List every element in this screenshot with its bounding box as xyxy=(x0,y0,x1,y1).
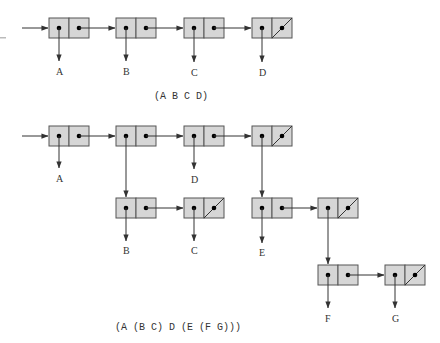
cons-cell xyxy=(49,126,115,168)
cons-cell xyxy=(184,18,251,62)
atom-label: A xyxy=(56,66,64,77)
list-caption: (A B C D) xyxy=(154,91,208,102)
diagram-flat-list: A B C D (A B C D) xyxy=(22,18,292,102)
atom-label: G xyxy=(392,313,399,324)
atom-label: E xyxy=(259,247,265,258)
diagram-nested-list: A D B C E F G (A (B C) D (E (F G))) xyxy=(22,126,425,333)
atom-label: B xyxy=(123,245,130,256)
cdr-pointer-icon xyxy=(280,134,285,139)
cdr-pointer-icon xyxy=(212,206,217,211)
cons-cell-nil xyxy=(252,126,292,197)
cdr-pointer-icon xyxy=(413,273,418,278)
atom-label: B xyxy=(123,66,130,77)
cons-cell xyxy=(116,198,183,241)
cons-cell xyxy=(116,18,183,61)
atom-label: A xyxy=(56,173,64,184)
cdr-pointer-icon xyxy=(346,206,351,211)
cons-cell-nil xyxy=(385,265,425,308)
cons-cell xyxy=(252,198,317,243)
atom-label: F xyxy=(325,313,331,324)
cons-cell xyxy=(318,265,384,308)
cdr-pointer-icon xyxy=(280,26,285,31)
cons-cell xyxy=(184,126,251,169)
atom-label: D xyxy=(259,67,266,78)
atom-label: D xyxy=(191,174,198,185)
atom-label: C xyxy=(191,67,198,78)
cons-cell xyxy=(49,18,115,61)
box-and-pointer-diagram: A B C D (A B C D) xyxy=(0,0,440,343)
cons-cell-nil xyxy=(252,18,292,62)
margin-dash xyxy=(0,37,6,39)
cons-cell-nil xyxy=(184,198,224,241)
cons-cell-nil xyxy=(318,198,358,264)
cons-cell xyxy=(116,126,183,197)
atom-label: C xyxy=(191,245,198,256)
list-caption: (A (B C) D (E (F G))) xyxy=(115,322,241,333)
